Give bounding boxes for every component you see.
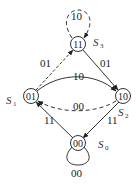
svg-text:11: 11: [73, 39, 83, 50]
svg-text:S: S: [98, 138, 104, 150]
svg-text:3: 3: [100, 42, 104, 50]
svg-text:S: S: [118, 106, 124, 118]
label-s2-s1: 00: [73, 100, 85, 112]
state-label-s1: S 1: [6, 94, 17, 108]
state-s2: 10: [116, 89, 131, 104]
state-diagram: 10 01 01 10 00 11 11 00 11 01 10 00 S 3 …: [0, 0, 138, 188]
svg-text:1: 1: [13, 100, 17, 108]
state-label-s0: S 0: [98, 138, 109, 152]
label-s3-s2: 01: [100, 57, 111, 69]
transition-s3-s2: [83, 50, 118, 90]
label-s2-s0: 11: [107, 114, 118, 126]
state-s1: 01: [24, 89, 39, 104]
svg-text:01: 01: [26, 91, 36, 102]
svg-text:0: 0: [105, 144, 109, 152]
state-label-s3: S 3: [93, 36, 104, 50]
state-s3: 11: [71, 37, 86, 52]
label-s3-self: 10: [71, 10, 83, 22]
label-s1-s3: 01: [40, 57, 51, 69]
label-s1-s2: 10: [73, 70, 85, 82]
svg-text:S: S: [93, 36, 99, 48]
svg-text:00: 00: [73, 138, 83, 149]
label-s0-self: 00: [71, 167, 83, 179]
svg-text:2: 2: [125, 112, 129, 120]
svg-text:10: 10: [118, 91, 128, 102]
state-label-s2: S 2: [118, 106, 129, 120]
label-s0-s1: 11: [44, 114, 55, 126]
state-s0: 00: [71, 136, 86, 151]
transition-s1-s3: [36, 50, 73, 90]
svg-text:S: S: [6, 94, 12, 106]
